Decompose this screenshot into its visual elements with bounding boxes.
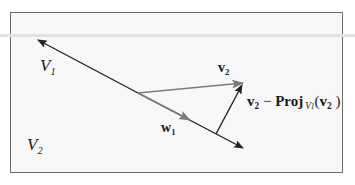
- label-orthogonal-component: v2 − ProjV1(v2 ): [247, 94, 340, 112]
- label-subspace-v2: V2: [27, 136, 43, 156]
- label-subspace-v1: V1: [40, 57, 56, 77]
- label-vector-v2: v2: [218, 61, 229, 77]
- label-vector-w1: w1: [161, 121, 175, 137]
- orthogonal-component-vector: [216, 85, 242, 134]
- w1-vector: [138, 93, 190, 120]
- v2-vector: [138, 83, 243, 93]
